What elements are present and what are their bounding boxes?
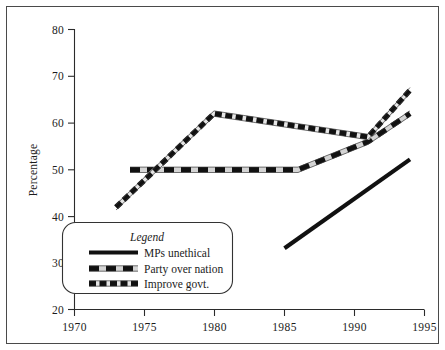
y-tick-label-70: 70	[52, 70, 64, 82]
x-tick-label-1970: 1970	[62, 321, 87, 333]
legend[interactable]: Legend MPs unethical Party over nation	[63, 223, 233, 294]
legend-title: Legend	[129, 231, 164, 244]
legend-label-mps-unethical: MPs unethical	[144, 247, 210, 259]
legend-label-improve-govt: Improve govt.	[144, 278, 209, 291]
x-tick-label-1980: 1980	[202, 321, 227, 333]
x-axis-ticks	[75, 310, 425, 317]
y-axis-title: Percentage	[27, 144, 40, 196]
y-tick-label-60: 60	[52, 117, 64, 129]
y-tick-label-80: 80	[52, 24, 64, 36]
series-improve-govt-edge-top	[116, 88, 410, 205]
chart-figure: 80 70 60 50 40 30 20 1970 1975 1980 1985…	[0, 0, 445, 350]
y-tick-label-20: 20	[52, 304, 64, 316]
series-mps-unethical	[285, 159, 411, 248]
legend-label-party-over-nation: Party over nation	[144, 263, 223, 276]
x-tick-label-1990: 1990	[342, 321, 367, 333]
y-tick-label-50: 50	[52, 164, 64, 176]
series-mps-unethical-line	[285, 159, 411, 248]
y-tick-label-40: 40	[52, 211, 64, 223]
x-tick-label-1975: 1975	[132, 321, 157, 333]
x-tick-label-1985: 1985	[272, 321, 297, 333]
line-chart: 80 70 60 50 40 30 20 1970 1975 1980 1985…	[0, 0, 445, 350]
x-tick-label-1995: 1995	[412, 321, 437, 333]
x-axis-tick-labels: 1970 1975 1980 1985 1990 1995	[62, 321, 437, 333]
